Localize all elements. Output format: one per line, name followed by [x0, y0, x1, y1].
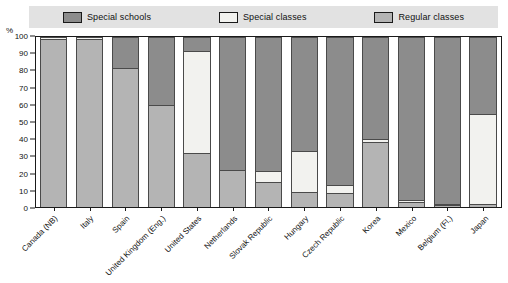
bar-segment-special-schools[interactable]	[469, 37, 496, 114]
x-label-slot: Belgium (Fl.)	[430, 212, 466, 282]
stacked-bar[interactable]	[291, 37, 318, 207]
x-axis-tick-mark	[54, 207, 55, 211]
stacked-bar[interactable]	[469, 37, 496, 207]
legend-label-special-schools: Special schools	[87, 12, 151, 22]
bar-slot	[108, 37, 144, 207]
chart-legend: Special schools Special classes Regular …	[29, 6, 498, 28]
x-axis-tick-mark	[340, 207, 341, 211]
bar-segment-regular-classes[interactable]	[291, 192, 318, 207]
x-axis-tick-mark	[197, 207, 198, 211]
x-axis-tick-mark	[161, 207, 162, 211]
y-axis: 1009080706050403020100	[0, 36, 35, 208]
stacked-bar[interactable]	[434, 37, 461, 207]
legend-label-special-classes: Special classes	[243, 12, 307, 22]
x-label-slot: Italy	[71, 212, 107, 282]
y-axis-tick-label: 100	[4, 32, 28, 41]
y-axis-tick-label: 80	[4, 66, 28, 75]
plot-area	[35, 36, 502, 208]
bar-segment-special-schools[interactable]	[362, 37, 389, 139]
stacked-bar[interactable]	[40, 37, 67, 207]
bar-segment-special-schools[interactable]	[434, 37, 461, 204]
x-label-slot: Czech Republic	[322, 212, 358, 282]
y-axis-tick-label: 20	[4, 169, 28, 178]
stacked-bar[interactable]	[148, 37, 175, 207]
x-axis-tick-mark	[483, 207, 484, 211]
bar-segment-regular-classes[interactable]	[255, 182, 282, 208]
x-label-slot: Japan	[466, 212, 502, 282]
bar-segment-special-schools[interactable]	[219, 37, 246, 170]
stacked-bar[interactable]	[362, 37, 389, 207]
bar-segment-regular-classes[interactable]	[362, 142, 389, 207]
x-axis-tick-label: Canada (NB)	[20, 214, 59, 253]
bar-segment-regular-classes[interactable]	[148, 105, 175, 207]
bar-slot	[72, 37, 108, 207]
x-axis-tick-mark	[233, 207, 234, 211]
bar-segment-special-classes[interactable]	[469, 114, 496, 204]
stacked-bar[interactable]	[255, 37, 282, 207]
stacked-bar[interactable]	[183, 37, 210, 207]
bar-slot	[143, 37, 179, 207]
bar-slot	[215, 37, 251, 207]
bar-segment-special-schools[interactable]	[183, 37, 210, 51]
bar-slot	[322, 37, 358, 207]
bar-slot	[465, 37, 501, 207]
y-axis-tick-label: 60	[4, 100, 28, 109]
stacked-bar[interactable]	[112, 37, 139, 207]
bar-segment-regular-classes[interactable]	[40, 39, 67, 207]
bar-segment-special-classes[interactable]	[291, 151, 318, 192]
x-label-slot: Slovak Republic	[251, 212, 287, 282]
x-axis-tick-label: Korea	[361, 214, 382, 235]
x-axis-tick-label: Spain	[110, 214, 131, 235]
bar-segment-regular-classes[interactable]	[326, 193, 353, 207]
y-axis-tick-label: 90	[4, 49, 28, 58]
x-axis-labels: Canada (NB)ItalySpainUnited Kingdom (Eng…	[35, 212, 502, 282]
stacked-bar[interactable]	[219, 37, 246, 207]
stacked-bar[interactable]	[398, 37, 425, 207]
bar-segment-regular-classes[interactable]	[219, 170, 246, 207]
x-axis-tick-label: Hungary	[283, 214, 311, 242]
bar-segment-special-schools[interactable]	[255, 37, 282, 171]
bar-slot	[36, 37, 72, 207]
bar-segment-special-schools[interactable]	[291, 37, 318, 151]
bar-segment-special-classes[interactable]	[183, 51, 210, 153]
legend-item-special-schools: Special schools	[63, 12, 151, 23]
x-axis-tick-label: Italy	[79, 214, 96, 231]
bar-segment-special-classes[interactable]	[255, 171, 282, 181]
x-axis-tick-mark	[447, 207, 448, 211]
y-axis-tick-label: 70	[4, 83, 28, 92]
bar-slot	[179, 37, 215, 207]
bar-slot	[429, 37, 465, 207]
stacked-bar[interactable]	[326, 37, 353, 207]
bar-segment-special-schools[interactable]	[326, 37, 353, 185]
legend-swatch-special-classes	[219, 12, 238, 23]
bar-segment-special-classes[interactable]	[326, 185, 353, 194]
legend-item-special-classes: Special classes	[219, 12, 307, 23]
y-axis-tick-label: 30	[4, 152, 28, 161]
bar-segment-regular-classes[interactable]	[76, 39, 103, 207]
x-axis-tick-label: Mexico	[394, 214, 418, 238]
x-axis-tick-mark	[304, 207, 305, 211]
stacked-bar[interactable]	[76, 37, 103, 207]
x-axis-tick-label: Japan	[469, 214, 491, 236]
y-axis-tick-label: 50	[4, 118, 28, 127]
bar-slot	[394, 37, 430, 207]
y-axis-tick-label: 10	[4, 186, 28, 195]
x-axis-tick-mark	[90, 207, 91, 211]
x-label-slot: Canada (NB)	[35, 212, 71, 282]
bar-segment-special-schools[interactable]	[398, 37, 425, 200]
bar-segment-special-schools[interactable]	[148, 37, 175, 105]
x-label-slot: Korea	[358, 212, 394, 282]
bar-segment-regular-classes[interactable]	[112, 68, 139, 207]
legend-swatch-special-schools	[63, 12, 82, 23]
x-axis-tick-mark	[125, 207, 126, 211]
legend-item-regular-classes: Regular classes	[374, 12, 464, 23]
x-axis-tick-mark	[268, 207, 269, 211]
legend-swatch-regular-classes	[374, 12, 393, 23]
bar-slot	[358, 37, 394, 207]
y-axis-tick-label: 0	[4, 204, 28, 213]
bar-segment-regular-classes[interactable]	[183, 153, 210, 207]
bar-slot	[251, 37, 287, 207]
bar-slot	[286, 37, 322, 207]
bar-segment-special-schools[interactable]	[112, 37, 139, 68]
x-axis-tick-mark	[376, 207, 377, 211]
